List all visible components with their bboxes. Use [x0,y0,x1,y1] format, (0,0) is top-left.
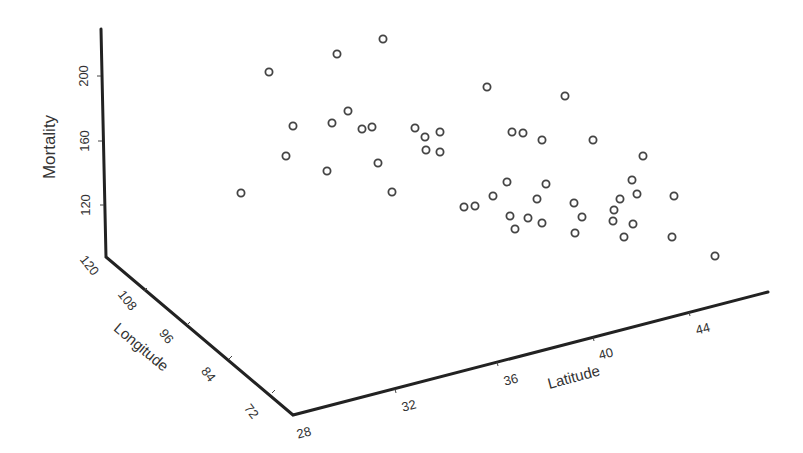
data-point-marker [344,107,351,114]
scatter-3d-plot: 200 160 120 Mortality 120 108 96 84 72 L… [0,0,803,453]
data-point-marker [506,212,513,219]
data-point-marker [668,233,675,240]
data-point-marker [519,129,526,136]
data-point-marker [282,152,289,159]
data-point-marker [524,214,531,221]
data-point-marker [237,189,244,196]
data-point-marker [616,195,623,202]
data-point-marker [483,83,490,90]
z-tick-label: 200 [76,65,91,87]
x-tick-label: 32 [400,397,418,415]
data-point-marker [711,252,718,259]
x-tick-label: 28 [295,424,313,442]
y-axis-title: Longitude [111,319,172,374]
data-point-marker [639,152,646,159]
data-point-marker [633,190,640,197]
data-point-marker [628,176,635,183]
data-point-marker [538,136,545,143]
data-point-marker [368,123,375,130]
y-tick-label: 84 [198,364,219,385]
data-point-marker [471,202,478,209]
data-point-marker [436,148,443,155]
data-point-marker [503,178,510,185]
y-tick-label: 72 [241,401,262,422]
data-point-marker [379,35,386,42]
data-point-marker [533,195,540,202]
z-axis-title: Mortality [40,114,59,179]
y-tick-label: 96 [156,326,177,347]
data-points [237,35,718,259]
data-point-marker [460,203,467,210]
data-point-marker [561,92,568,99]
data-point-marker [670,192,677,199]
x-axis-title: Latitude [546,362,602,392]
data-point-marker [422,146,429,153]
data-point-marker [610,206,617,213]
data-point-marker [508,128,515,135]
data-point-marker [411,124,418,131]
data-point-marker [629,220,636,227]
data-point-marker [570,199,577,206]
data-point-marker [609,217,616,224]
x-axis: 28 32 36 40 44 Latitude [295,312,712,442]
data-point-marker [571,229,578,236]
z-tick-label: 160 [77,130,92,152]
data-point-marker [421,133,428,140]
x-tick-label: 44 [694,320,712,338]
data-point-marker [538,219,545,226]
y-tick-label: 108 [115,287,140,313]
data-point-marker [436,128,443,135]
y-axis: 120 108 96 84 72 Longitude [77,252,275,421]
data-point-marker [620,233,627,240]
data-point-marker [374,159,381,166]
data-point-marker [489,192,496,199]
data-point-marker [323,167,330,174]
z-tick-label: 120 [78,194,93,216]
data-point-marker [578,213,585,220]
x-tick-label: 40 [597,345,615,363]
data-point-marker [358,125,365,132]
data-point-marker [511,225,518,232]
data-point-marker [265,68,272,75]
data-point-marker [388,188,395,195]
axis-frame [101,29,768,415]
data-point-marker [589,136,596,143]
z-axis: 200 160 120 Mortality [40,65,104,216]
y-tick-label: 120 [77,252,102,278]
x-tick-label: 36 [502,371,520,389]
data-point-marker [289,122,296,129]
data-point-marker [328,119,335,126]
data-point-marker [542,180,549,187]
data-point-marker [333,50,340,57]
